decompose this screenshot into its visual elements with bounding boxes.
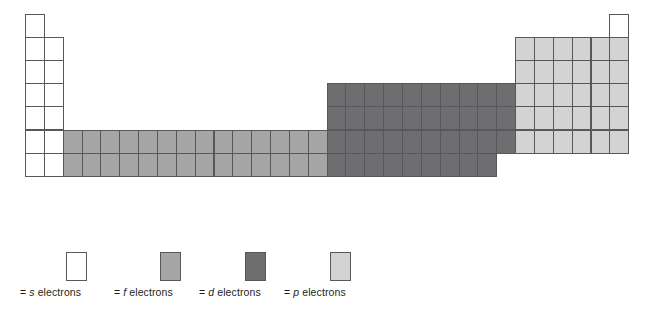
element-cell-f-r7-c8 <box>157 153 177 177</box>
element-cell-d-r5-c18 <box>345 106 365 130</box>
element-cell-d-r7-c17 <box>327 153 347 177</box>
element-cell-p-r3-c32 <box>609 60 629 84</box>
element-cell-f-r6-c12 <box>232 130 252 154</box>
element-cell-p-r2-c28 <box>534 37 554 61</box>
element-cell-f-r7-c13 <box>251 153 271 177</box>
element-cell-s-r6-c1 <box>25 130 45 154</box>
element-cell-s-r1-c1 <box>25 14 45 38</box>
element-cell-d-r7-c19 <box>364 153 384 177</box>
element-cell-d-r5-c26 <box>496 106 516 130</box>
legend-prefix-d: = <box>199 286 208 298</box>
element-cell-d-r7-c20 <box>383 153 403 177</box>
element-cell-s-r2-c2 <box>44 37 64 61</box>
element-cell-s-r2-c1 <box>25 37 45 61</box>
element-cell-d-r4-c24 <box>459 83 479 107</box>
element-cell-s-r1-c32 <box>609 14 629 38</box>
element-cell-d-r4-c18 <box>345 83 365 107</box>
element-cell-d-r6-c26 <box>496 130 516 154</box>
element-cell-p-r2-c30 <box>572 37 592 61</box>
element-cell-d-r7-c25 <box>477 153 497 177</box>
element-cell-f-r7-c4 <box>82 153 102 177</box>
element-cell-d-r7-c18 <box>345 153 365 177</box>
element-cell-s-r7-c1 <box>25 153 45 177</box>
element-cell-p-r5-c30 <box>572 106 592 130</box>
element-cell-p-r4-c27 <box>515 83 535 107</box>
element-cell-d-r6-c21 <box>402 130 422 154</box>
element-cell-d-r4-c19 <box>364 83 384 107</box>
legend-swatch-s <box>66 252 87 281</box>
element-cell-f-r7-c15 <box>289 153 309 177</box>
element-cell-f-r6-c6 <box>119 130 139 154</box>
element-cell-d-r6-c18 <box>345 130 365 154</box>
element-cell-d-r5-c20 <box>383 106 403 130</box>
element-cell-d-r5-c17 <box>327 106 347 130</box>
element-cell-p-r6-c28 <box>534 130 554 154</box>
element-cell-p-r3-c27 <box>515 60 535 84</box>
element-cell-d-r7-c23 <box>440 153 460 177</box>
element-cell-p-r6-c30 <box>572 130 592 154</box>
element-cell-f-r6-c9 <box>176 130 196 154</box>
element-cell-d-r6-c17 <box>327 130 347 154</box>
element-cell-p-r2-c27 <box>515 37 535 61</box>
element-cell-p-r5-c32 <box>609 106 629 130</box>
element-cell-p-r5-c31 <box>591 106 611 130</box>
element-cell-f-r6-c13 <box>251 130 271 154</box>
element-cell-f-r6-c4 <box>82 130 102 154</box>
element-cell-f-r6-c14 <box>270 130 290 154</box>
element-cell-f-r7-c12 <box>232 153 252 177</box>
element-cell-p-r3-c29 <box>553 60 573 84</box>
legend-suffix-p: electrons <box>299 286 346 298</box>
element-cell-d-r4-c21 <box>402 83 422 107</box>
element-cell-d-r4-c25 <box>477 83 497 107</box>
element-cell-p-r6-c27 <box>515 130 535 154</box>
element-cell-p-r2-c29 <box>553 37 573 61</box>
element-cell-d-r7-c22 <box>421 153 441 177</box>
element-cell-p-r3-c30 <box>572 60 592 84</box>
element-cell-f-r7-c10 <box>195 153 215 177</box>
element-cell-p-r6-c31 <box>591 130 611 154</box>
legend-suffix-d: electrons <box>214 286 261 298</box>
legend-suffix-f: electrons <box>126 286 173 298</box>
element-cell-p-r6-c32 <box>609 130 629 154</box>
element-cell-f-r6-c11 <box>214 130 234 154</box>
element-cell-d-r6-c25 <box>477 130 497 154</box>
element-cell-d-r4-c17 <box>327 83 347 107</box>
element-cell-d-r6-c20 <box>383 130 403 154</box>
element-cell-p-r2-c32 <box>609 37 629 61</box>
element-cell-d-r5-c25 <box>477 106 497 130</box>
element-cell-s-r3-c2 <box>44 60 64 84</box>
element-cell-s-r3-c1 <box>25 60 45 84</box>
element-cell-p-r5-c27 <box>515 106 535 130</box>
element-cell-d-r6-c19 <box>364 130 384 154</box>
legend-swatch-d <box>245 252 266 281</box>
element-cell-d-r5-c24 <box>459 106 479 130</box>
element-cell-f-r6-c5 <box>100 130 120 154</box>
element-cell-f-r7-c3 <box>63 153 83 177</box>
element-cell-d-r7-c24 <box>459 153 479 177</box>
element-cell-f-r6-c3 <box>63 130 83 154</box>
element-cell-d-r7-c21 <box>402 153 422 177</box>
legend-label-s: = s electrons <box>20 286 81 298</box>
element-cell-d-r5-c22 <box>421 106 441 130</box>
element-cell-s-r5-c1 <box>25 106 45 130</box>
element-cell-s-r5-c2 <box>44 106 64 130</box>
element-cell-p-r3-c31 <box>591 60 611 84</box>
element-cell-s-r6-c2 <box>44 130 64 154</box>
legend-label-d: = d electrons <box>199 286 261 298</box>
element-cell-d-r5-c19 <box>364 106 384 130</box>
legend-prefix-s: = <box>20 286 29 298</box>
element-cell-p-r4-c29 <box>553 83 573 107</box>
element-cell-s-r7-c2 <box>44 153 64 177</box>
legend: = s electrons= f electrons= d electrons=… <box>0 252 654 317</box>
element-cell-d-r4-c22 <box>421 83 441 107</box>
element-cell-d-r4-c26 <box>496 83 516 107</box>
element-cell-f-r7-c9 <box>176 153 196 177</box>
element-cell-d-r4-c20 <box>383 83 403 107</box>
element-cell-d-r4-c23 <box>440 83 460 107</box>
element-cell-p-r2-c31 <box>591 37 611 61</box>
element-cell-p-r4-c28 <box>534 83 554 107</box>
legend-prefix-f: = <box>114 286 123 298</box>
element-cell-f-r6-c15 <box>289 130 309 154</box>
element-cell-p-r5-c29 <box>553 106 573 130</box>
element-cell-p-r6-c29 <box>553 130 573 154</box>
